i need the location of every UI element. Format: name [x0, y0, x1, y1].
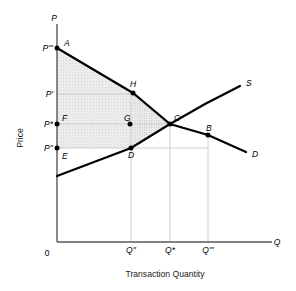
xtick-label-q-star: Q* — [165, 245, 176, 255]
plot-area: P Q 0 P''' P' P* P'' Q'' Q* Q''' A H C B… — [0, 0, 296, 291]
xtick-label-q-triple-prime: Q''' — [202, 245, 214, 255]
shaded-region-band-upper — [57, 48, 133, 148]
point-e-dot — [55, 146, 60, 151]
x-axis-name-label: Q — [274, 237, 281, 247]
point-a-dot — [55, 46, 60, 51]
point-f-dot — [55, 122, 60, 127]
point-b-dot — [206, 133, 211, 138]
xtick-label-q-double-prime: Q'' — [126, 245, 136, 255]
ytick-label-p-prime: P' — [46, 89, 54, 99]
ytick-label-p-star: P* — [44, 119, 54, 129]
origin-label: 0 — [45, 248, 50, 258]
point-a-label: A — [63, 38, 70, 48]
y-axis-name-label: P — [51, 13, 57, 23]
ytick-label-p-double-prime: P'' — [44, 143, 53, 153]
x-axis-title: Transaction Quantity — [126, 269, 206, 279]
demand-curve-label: D — [252, 149, 258, 159]
point-f-label: F — [62, 113, 68, 123]
ytick-label-p-triple-prime: P''' — [42, 43, 53, 53]
point-d-label: D — [128, 150, 134, 160]
point-c-dot — [168, 122, 173, 127]
point-h-label: H — [130, 79, 137, 89]
point-b-label: B — [206, 123, 212, 133]
point-e-label: E — [62, 151, 68, 161]
supply-curve-label: S — [246, 78, 252, 88]
point-c-label: C — [174, 113, 181, 123]
point-h-dot — [131, 91, 136, 96]
supply-demand-chart: P Q 0 P''' P' P* P'' Q'' Q* Q''' A H C B… — [0, 0, 296, 291]
point-g-label: G — [124, 113, 131, 123]
